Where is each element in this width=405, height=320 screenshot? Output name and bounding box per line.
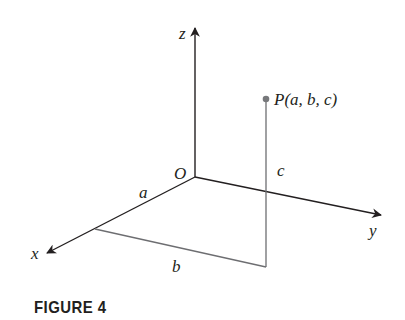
projection-b-line: [95, 229, 266, 267]
point-p-dot: [263, 96, 270, 103]
origin-label: O: [174, 164, 186, 183]
coordinate-diagram: z x y O a b c P(a, b, c): [0, 0, 405, 320]
segment-c-label: c: [277, 161, 285, 180]
x-axis-label: x: [30, 244, 39, 263]
y-axis-label: y: [367, 221, 377, 240]
z-axis-label: z: [178, 24, 186, 43]
x-axis: [47, 177, 195, 253]
figure-caption: FIGURE 4: [34, 298, 107, 318]
y-axis: [195, 177, 381, 215]
point-p-label: P(a, b, c): [273, 90, 338, 109]
segment-b-label: b: [172, 257, 181, 276]
segment-a-label: a: [139, 183, 148, 202]
